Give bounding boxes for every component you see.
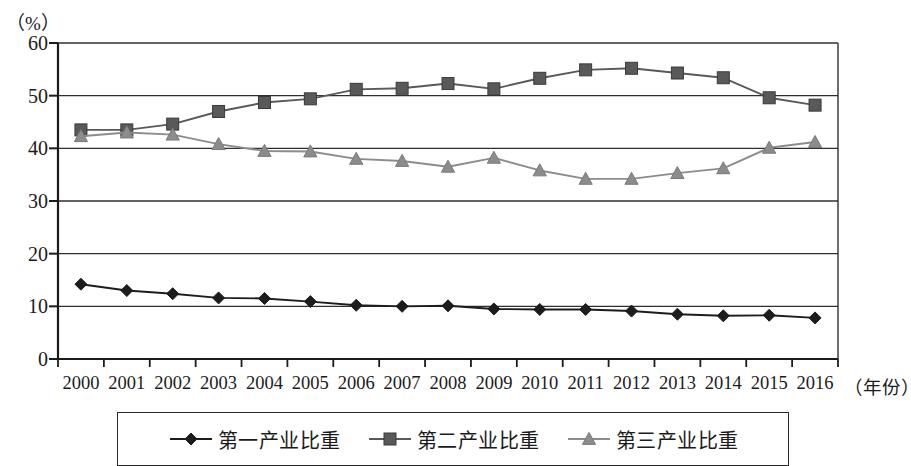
plot-area <box>0 0 911 466</box>
x-tick-label: 2011 <box>567 373 603 394</box>
x-tick-label: 2003 <box>200 373 237 394</box>
x-tick-label: 2013 <box>659 373 696 394</box>
x-tick-label: 2004 <box>246 373 283 394</box>
x-tick-label: 2002 <box>154 373 191 394</box>
diamond-marker <box>442 300 454 312</box>
square-marker <box>671 67 683 79</box>
square-marker <box>488 83 500 95</box>
x-tick-label: 2008 <box>430 373 467 394</box>
series-1 <box>75 278 821 324</box>
diamond-marker <box>534 303 546 315</box>
square-marker <box>384 433 396 445</box>
x-tick-label: 2006 <box>338 373 375 394</box>
square-marker <box>213 105 225 117</box>
square-marker <box>367 429 413 449</box>
diamond-marker <box>168 429 214 449</box>
diamond-marker <box>75 278 87 290</box>
x-tick-label: 2010 <box>521 373 558 394</box>
chart-legend: 第一产业比重第二产业比重第三产业比重 <box>117 412 789 466</box>
diamond-marker <box>488 303 500 315</box>
x-tick-label: 2000 <box>62 373 99 394</box>
diamond-marker <box>167 288 179 300</box>
triangle-marker <box>566 429 612 449</box>
diamond-marker <box>809 312 821 324</box>
square-marker <box>580 64 592 76</box>
x-tick-label: 2005 <box>292 373 329 394</box>
x-tick-label: 2007 <box>384 373 421 394</box>
chart-container: （%） 0102030405060 2000200120022003200420… <box>0 0 911 466</box>
legend-label: 第三产业比重 <box>616 425 739 454</box>
diamond-marker <box>396 300 408 312</box>
x-tick-label: 2012 <box>613 373 650 394</box>
square-marker <box>717 72 729 84</box>
square-marker <box>304 93 316 105</box>
diamond-marker <box>258 292 270 304</box>
diamond-marker <box>763 309 775 321</box>
square-marker <box>534 72 546 84</box>
square-marker <box>809 99 821 111</box>
legend-item-3[interactable]: 第三产业比重 <box>566 425 739 454</box>
square-marker <box>442 78 454 90</box>
x-tick-label: 2001 <box>108 373 145 394</box>
legend-item-1[interactable]: 第一产业比重 <box>168 425 341 454</box>
series-3 <box>74 126 821 184</box>
diamond-marker <box>350 299 362 311</box>
x-tick-label: 2009 <box>475 373 512 394</box>
x-axis-title: （年份） <box>844 373 911 399</box>
square-marker <box>258 97 270 109</box>
square-marker <box>396 82 408 94</box>
legend-label: 第一产业比重 <box>218 425 341 454</box>
x-tick-label: 2015 <box>751 373 788 394</box>
legend-item-2[interactable]: 第二产业比重 <box>367 425 540 454</box>
square-marker <box>763 92 775 104</box>
diamond-marker <box>671 308 683 320</box>
x-tick-label: 2014 <box>705 373 742 394</box>
square-marker <box>626 62 638 74</box>
series-2 <box>75 62 821 136</box>
triangle-marker <box>808 135 821 147</box>
triangle-marker <box>717 162 730 174</box>
diamond-marker <box>580 303 592 315</box>
triangle-marker <box>487 151 500 163</box>
diamond-marker <box>717 310 729 322</box>
diamond-marker <box>213 292 225 304</box>
diamond-marker <box>121 285 133 297</box>
diamond-marker <box>185 433 197 445</box>
legend-label: 第二产业比重 <box>417 425 540 454</box>
x-tick-label: 2016 <box>797 373 834 394</box>
square-marker <box>350 83 362 95</box>
